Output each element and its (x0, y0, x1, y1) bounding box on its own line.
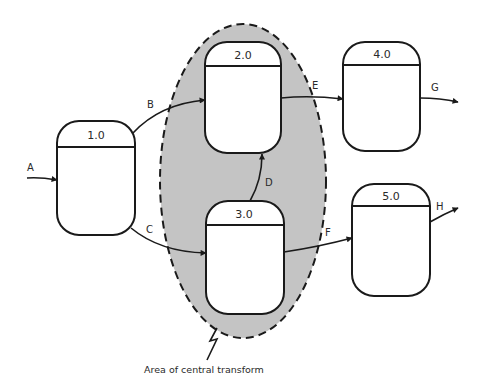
flow-label: F (325, 227, 331, 238)
flow-label: E (312, 80, 318, 91)
process-label: 2.0 (234, 49, 252, 62)
diagram-canvas: 1.0 2.0 3.0 4.0 5.0 A B C D (0, 0, 484, 389)
central-transform-caption: Area of central transform (144, 364, 264, 375)
flow-label: C (146, 224, 153, 235)
process-label: 1.0 (87, 129, 105, 142)
flow-a[interactable]: A (27, 162, 57, 180)
flow-label: D (265, 177, 273, 188)
process-4-0[interactable]: 4.0 (343, 42, 420, 151)
process-3-0[interactable]: 3.0 (206, 201, 284, 314)
process-2-0[interactable]: 2.0 (205, 42, 281, 153)
flow-label: G (431, 82, 439, 93)
process-label: 4.0 (373, 48, 391, 61)
flow-label: H (436, 201, 444, 212)
flow-label: B (147, 99, 154, 110)
flow-g[interactable]: G (420, 82, 458, 102)
flow-label: A (27, 162, 34, 173)
process-label: 3.0 (235, 208, 253, 221)
process-5-0[interactable]: 5.0 (352, 184, 430, 296)
process-1-0[interactable]: 1.0 (57, 121, 135, 235)
flow-h[interactable]: H (430, 201, 458, 222)
process-label: 5.0 (382, 190, 400, 203)
